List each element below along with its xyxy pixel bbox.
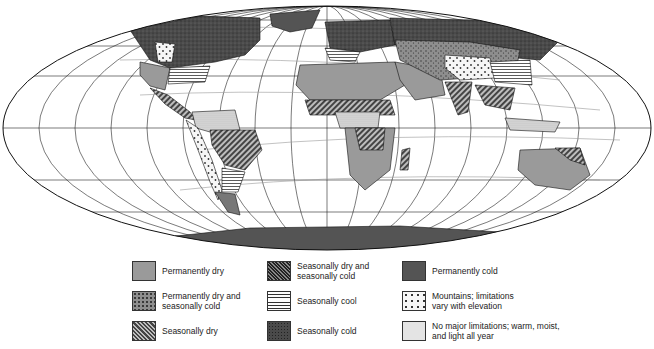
legend-label: Seasonally cold <box>297 326 357 336</box>
legend-item-seasonally-dry-seasonally-cold: Seasonally dry and seasonally cold <box>267 261 369 281</box>
madagascar <box>400 148 410 170</box>
sa-tip <box>215 192 240 215</box>
europe <box>325 20 395 52</box>
swatch-no-major-limitations <box>402 321 426 341</box>
sa-south <box>222 168 245 192</box>
legend-label: Seasonally dry <box>162 326 218 336</box>
legend-label: Permanently dry and seasonally cold <box>162 291 240 311</box>
legend-label: Mountains; limitations vary with elevati… <box>432 291 514 311</box>
antarctica <box>140 226 560 252</box>
legend-item-mountains: Mountains; limitations vary with elevati… <box>402 291 514 311</box>
swatch-seasonally-cool <box>267 291 291 311</box>
legend-label: Permanently cold <box>432 266 498 276</box>
swatch-seasonally-dry <box>132 321 156 341</box>
legend-item-seasonally-cool: Seasonally cool <box>267 291 357 311</box>
swatch-permanently-dry <box>132 261 156 281</box>
legend-item-permanently-cold: Permanently cold <box>402 261 498 281</box>
world-map <box>0 0 654 255</box>
north-america <box>130 16 260 68</box>
east-asia <box>490 60 532 85</box>
legend-item-permanently-dry: Permanently dry <box>132 261 224 281</box>
africa-central <box>335 112 380 128</box>
indonesia <box>505 118 560 132</box>
legend-label: No major limitations; warm, moist, and l… <box>432 321 560 341</box>
sa-amazon <box>192 110 240 132</box>
na-mountains <box>155 42 175 62</box>
southeast-asia <box>475 85 515 110</box>
legend-label: Permanently dry <box>162 266 224 276</box>
africa-east-dry <box>355 128 385 150</box>
swatch-permanently-dry-seasonally-cold <box>132 291 156 311</box>
legend-item-seasonally-dry: Seasonally dry <box>132 321 218 341</box>
legend-item-no-major-limitations: No major limitations; warm, moist, and l… <box>402 321 560 341</box>
na-southeast <box>168 66 210 84</box>
swatch-seasonally-cold <box>267 321 291 341</box>
graticule <box>0 0 654 255</box>
swatch-mountains <box>402 291 426 311</box>
swatch-seasonally-dry-seasonally-cold <box>267 261 291 281</box>
legend-item-seasonally-cold: Seasonally cold <box>267 321 357 341</box>
legend-label: Seasonally cool <box>297 296 357 306</box>
sa-brazil <box>210 130 262 170</box>
new-zealand <box>600 192 612 208</box>
legend-label: Seasonally dry and seasonally cold <box>297 261 369 281</box>
swatch-permanently-cold <box>402 261 426 281</box>
greenland <box>270 10 320 32</box>
africa-sahara <box>296 62 405 100</box>
legend-item-permanently-dry-seasonally-cold: Permanently dry and seasonally cold <box>132 291 240 311</box>
